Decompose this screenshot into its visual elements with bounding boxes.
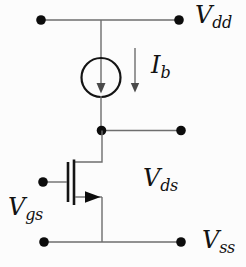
wire-drain-to-channel [75, 131, 102, 163]
gate-terminal-node [38, 177, 48, 187]
vgs-label-base: V [8, 193, 25, 221]
vds-label-sub: ds [160, 176, 177, 195]
vdd-label-sub: dd [212, 13, 231, 32]
vss-label-sub: ss [219, 238, 234, 257]
vdd-label-base: V [195, 1, 212, 29]
source-arrow-head-icon [85, 191, 101, 202]
vgs-label: Vgs [8, 195, 43, 223]
ib-label-sub: b [160, 63, 170, 82]
circuit-canvas: Vdd Ib Vds Vgs Vss [0, 0, 246, 267]
vss-terminal-right-node [176, 237, 186, 247]
current-source-arrow-head-icon [97, 83, 106, 94]
ib-direction-arrow-head-icon [131, 83, 139, 93]
vss-terminal-left-node [39, 237, 49, 247]
vdd-terminal-right-node [174, 15, 184, 25]
vds-label-base: V [143, 164, 160, 192]
vdd-terminal-left-node [36, 15, 46, 25]
vdd-label: Vdd [195, 3, 232, 31]
drain-terminal-node [176, 126, 186, 136]
vds-label: Vds [143, 166, 178, 194]
vgs-label-sub: gs [25, 205, 42, 224]
vss-label-base: V [202, 226, 219, 254]
ib-label: Ib [151, 53, 170, 81]
vss-label: Vss [202, 228, 235, 256]
